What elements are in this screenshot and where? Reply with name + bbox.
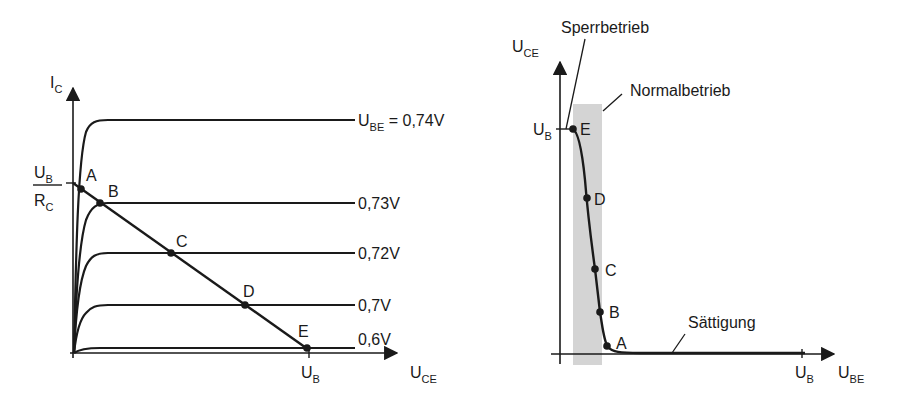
curve-label-073: 0,73V bbox=[358, 195, 400, 212]
right-point-d bbox=[583, 194, 591, 202]
left-point-d bbox=[241, 301, 249, 309]
right-x-axis-label: UBE bbox=[838, 364, 864, 385]
right-point-a bbox=[603, 342, 611, 350]
left-point-a bbox=[77, 185, 85, 193]
intercept-label: UB RC bbox=[33, 164, 62, 213]
left-point-c-label: C bbox=[176, 233, 188, 250]
saettigung-label: Sättigung bbox=[688, 314, 756, 331]
right-point-d-label: D bbox=[594, 191, 606, 208]
left-chart: A B C D E IC UB RC UBE = 0,74V 0,73V 0,7… bbox=[33, 74, 445, 385]
left-point-a-label: A bbox=[86, 167, 97, 184]
left-x-tick-label: UB bbox=[301, 364, 320, 385]
left-point-e-label: E bbox=[298, 323, 309, 340]
left-point-b bbox=[96, 199, 104, 207]
left-point-c bbox=[167, 249, 175, 257]
svg-text:UB: UB bbox=[34, 164, 53, 185]
curve-ube-070 bbox=[74, 305, 355, 353]
curve-ube-072 bbox=[74, 253, 355, 353]
svg-text:RC: RC bbox=[34, 192, 54, 213]
right-point-c bbox=[591, 265, 599, 273]
right-point-e-label: E bbox=[580, 121, 591, 138]
saettigung-leader bbox=[672, 334, 685, 353]
curve-label-072: 0,72V bbox=[358, 245, 400, 262]
left-point-d-label: D bbox=[243, 283, 255, 300]
right-point-a-label: A bbox=[616, 335, 627, 352]
sperrbetrieb-label: Sperrbetrieb bbox=[561, 19, 649, 36]
right-point-b bbox=[596, 308, 604, 316]
normalbetrieb-label: Normalbetrieb bbox=[630, 82, 731, 99]
diagram-canvas: A B C D E IC UB RC UBE = 0,74V 0,73V 0,7… bbox=[0, 0, 901, 413]
right-x-tick-label: UB bbox=[795, 364, 814, 385]
left-y-axis-label: IC bbox=[50, 74, 62, 95]
curve-label-074: UBE = 0,74V bbox=[358, 112, 445, 133]
left-point-b-label: B bbox=[108, 183, 119, 200]
left-x-axis-label: UCE bbox=[410, 364, 437, 385]
right-point-c-label: C bbox=[605, 262, 617, 279]
left-point-e bbox=[303, 344, 311, 352]
load-line bbox=[73, 183, 309, 350]
right-point-b-label: B bbox=[609, 304, 620, 321]
curve-label-070: 0,7V bbox=[358, 297, 391, 314]
right-y-axis-label: UCE bbox=[512, 38, 539, 59]
right-point-e bbox=[569, 125, 577, 133]
normalbetrieb-region bbox=[573, 104, 602, 365]
curve-ube-074 bbox=[74, 120, 355, 353]
right-y-tick-label: UB bbox=[533, 121, 552, 142]
normalbetrieb-leader bbox=[603, 94, 622, 111]
right-chart: E D C B A Sperrbetrieb Normalbetrieb Sät… bbox=[512, 19, 864, 385]
curve-ube-073 bbox=[74, 203, 355, 353]
curve-label-060: 0,6V bbox=[358, 331, 391, 348]
